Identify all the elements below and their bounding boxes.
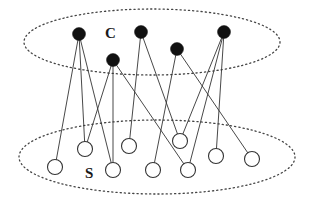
bipartite-graph-diagram: C S: [0, 0, 310, 200]
node-s4: [122, 139, 137, 154]
node-c2: [107, 54, 120, 67]
node-s5: [146, 163, 161, 178]
node-s8: [209, 149, 224, 164]
edge-c1-s2: [79, 34, 85, 149]
node-s6: [173, 134, 188, 149]
node-c4: [171, 43, 184, 56]
node-s1: [48, 160, 63, 175]
set-labels: C S: [85, 25, 116, 181]
node-c1: [73, 28, 86, 41]
node-s2: [78, 142, 93, 157]
set-label-s: S: [85, 165, 93, 181]
node-s7: [181, 163, 196, 178]
edge-c1-s1: [55, 34, 79, 167]
edge-c3-s4: [129, 32, 141, 146]
node-s9: [245, 152, 260, 167]
set-ellipse-c: [24, 9, 280, 75]
edge-c5-s8: [216, 32, 224, 156]
node-c5: [218, 26, 231, 39]
node-s3: [106, 163, 121, 178]
edge-c5-s6: [180, 32, 224, 141]
edge-c2-s7: [113, 60, 188, 170]
node-c3: [135, 26, 148, 39]
graph-svg: C S: [0, 0, 310, 200]
set-label-c: C: [105, 25, 116, 41]
edge-c4-s9: [177, 49, 252, 159]
edge-c4-s5: [153, 49, 177, 170]
